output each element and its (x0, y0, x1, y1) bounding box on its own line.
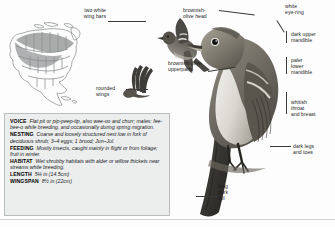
annotation-brownish-olive-head: brownish- olive head (183, 7, 231, 19)
info-entry-wingspan: WINGSPAN 8½ in (22cm) (10, 178, 164, 184)
leader-line-paler-lower-mandible (286, 57, 287, 74)
info-entry-nesting: NESTING Coarse and loosely structured ne… (10, 131, 164, 144)
info-entry-feeding: FEEDING Mostly insects, caught mainly in… (10, 145, 164, 158)
info-label-habitat: HABITAT (10, 158, 33, 164)
info-label-wingspan: WINGSPAN (10, 178, 39, 184)
leader-line-long-dark-tail (196, 196, 217, 197)
annotation-paler-lower-mandible: paler lower mandible (291, 57, 335, 76)
info-value-length: 5¼ in (14.5cm) (35, 171, 69, 177)
range-map (4, 16, 82, 108)
info-text-voice: Flat pit or pip-peep-tip, also wee-oo an… (10, 118, 162, 130)
annotation-rounded-wings: rounded wings (96, 85, 136, 97)
info-label-voice: VOICE (10, 118, 27, 124)
annotation-whitish-throat-and-breast: whitish throat and breast (291, 99, 335, 118)
annotation-white-eye-ring: white eye-ring (285, 3, 329, 15)
annotation-brownish-olive-upperparts: brownish-olive upperparts (168, 60, 224, 72)
annotation-long-dark-tail: long dark tail (218, 183, 248, 202)
info-text-habitat: Wet shrubby habitats with alder or willo… (10, 158, 159, 170)
leader-line-dark-legs-and-toes (270, 146, 291, 147)
info-label-length: LENGTH (10, 171, 32, 177)
info-entry-habitat: HABITAT Wet shrubby habitats with alder … (10, 158, 164, 171)
annotation-two-white-wing-bars: two white wing bars (62, 7, 106, 19)
leader-line-rounded-wings (126, 89, 148, 90)
info-label-nesting: NESTING (10, 131, 34, 137)
info-entry-voice: VOICE Flat pit or pip-peep-tip, also wee… (10, 118, 164, 131)
species-info-panel: VOICE Flat pit or pip-peep-tip, also wee… (4, 113, 170, 216)
annotation-dark-upper-mandible: dark upper mandible (291, 31, 335, 43)
info-value-wingspan: 8½ in (22cm) (42, 178, 72, 184)
field-guide-page: two white wing bars rounded wings browni… (0, 0, 335, 227)
leader-line-whitish-throat-and-breast (286, 92, 287, 114)
leader-line-two-white-wing-bars (108, 21, 146, 22)
info-label-feeding: FEEDING (10, 145, 34, 151)
annotation-dark-legs-and-toes: dark legs and toes (293, 143, 335, 155)
info-entry-length: LENGTH 5¼ in (14.5cm) (10, 171, 164, 177)
flying-bird-wing-detail (104, 62, 156, 106)
page-divider (0, 219, 335, 220)
leader-line-dark-upper-mandible (286, 31, 287, 43)
